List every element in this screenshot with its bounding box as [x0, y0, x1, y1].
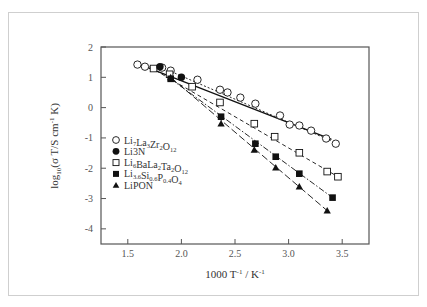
conductivity-arrhenius-chart: 210-1-2-3-4 1.52.02.53.03.5 Li7La3Zr2O12… — [0, 0, 427, 307]
x-tick-label: 2.0 — [175, 248, 188, 259]
open-circle-marker-icon — [194, 76, 201, 83]
open-circle-marker-icon — [322, 135, 329, 142]
open-square-marker-icon — [296, 149, 303, 156]
open-square-marker-icon — [251, 120, 258, 127]
open-square-marker-icon — [271, 133, 278, 140]
filled-circle-marker-icon — [113, 148, 120, 155]
y-tick-label: 0 — [88, 102, 93, 113]
open-square-marker-icon — [217, 99, 224, 106]
legend-item: LiPON — [113, 180, 153, 191]
filled-square-marker-icon — [296, 170, 303, 177]
filled-triangle-marker-icon — [217, 120, 224, 127]
y-tick-label: -1 — [85, 132, 93, 143]
data-points — [134, 61, 341, 214]
open-circle-marker-icon — [276, 112, 283, 119]
x-tick-label: 2.5 — [229, 248, 242, 259]
legend-item: Li3N — [113, 146, 146, 157]
open-circle-marker-icon — [252, 100, 259, 107]
filled-square-marker-icon — [329, 194, 336, 201]
y-tick-label: -3 — [85, 193, 93, 204]
filled-triangle-marker-icon — [251, 146, 258, 153]
filled-square-marker-icon — [272, 153, 279, 160]
y-axis-title: log10(σ T/S cm-1 K) — [48, 103, 63, 189]
open-circle-marker-icon — [113, 137, 120, 144]
fit-line-lipon — [171, 77, 328, 210]
legend-label: Li3N — [124, 146, 145, 157]
fit-line-li6bala2ta2o12 — [149, 67, 338, 177]
open-square-marker-icon — [335, 173, 342, 180]
filled-triangle-marker-icon — [113, 182, 120, 188]
x-tick-label: 3.0 — [282, 248, 295, 259]
open-circle-marker-icon — [224, 89, 231, 96]
fit-lines — [137, 64, 337, 211]
open-square-marker-icon — [324, 168, 331, 175]
open-circle-marker-icon — [332, 140, 339, 147]
legend-label: Li6BaLa2Ta2O12 — [124, 157, 188, 175]
open-square-marker-icon — [150, 65, 157, 72]
open-circle-marker-icon — [216, 86, 223, 93]
filled-triangle-marker-icon — [296, 183, 303, 190]
x-tick-label: 1.5 — [122, 248, 135, 259]
open-square-marker-icon — [113, 160, 119, 166]
x-tick-label: 3.5 — [336, 248, 349, 259]
fit-line-li3-6si0-6p0-4o4 — [171, 79, 333, 198]
legend: Li7La3Zr2O12Li3NLi6BaLa2Ta2O12Li3.6Si0.6… — [113, 135, 188, 191]
filled-circle-marker-icon — [156, 63, 163, 70]
y-tick-label: 2 — [88, 42, 93, 53]
x-axis-ticks: 1.52.02.53.03.5 — [122, 239, 349, 259]
open-circle-marker-icon — [237, 94, 244, 101]
y-tick-label: -4 — [85, 223, 93, 234]
open-circle-marker-icon — [307, 127, 314, 134]
filled-square-marker-icon — [252, 140, 259, 147]
filled-square-marker-icon — [113, 171, 119, 177]
filled-square-marker-icon — [218, 113, 225, 120]
fit-line-li3n — [160, 67, 332, 141]
filled-circle-marker-icon — [178, 74, 185, 81]
open-square-marker-icon — [189, 83, 196, 90]
legend-label: LiPON — [124, 180, 153, 191]
y-axis-ticks: 210-1-2-3-4 — [85, 42, 106, 235]
y-tick-label: -2 — [85, 163, 93, 174]
x-axis-title: 1000 T-1 / K-1 — [205, 268, 265, 280]
open-circle-marker-icon — [134, 61, 141, 68]
open-circle-marker-icon — [286, 121, 293, 128]
open-circle-marker-icon — [296, 122, 303, 129]
open-circle-marker-icon — [141, 63, 148, 70]
y-tick-label: 1 — [88, 72, 93, 83]
